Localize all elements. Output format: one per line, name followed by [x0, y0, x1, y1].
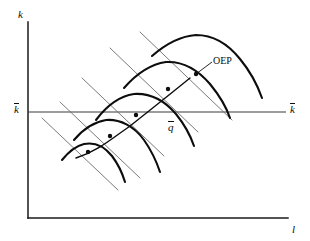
- tangency-point: [166, 87, 170, 91]
- economics-isoquant-figure: k l k k q OEP: [0, 0, 310, 241]
- x-axis-label: l: [292, 224, 295, 235]
- y-axis-label: k: [18, 9, 23, 20]
- qbar-text: q: [168, 121, 174, 133]
- isoquant-curve-1: [62, 144, 125, 183]
- kbar-right-text: k: [290, 103, 295, 115]
- qbar-label: q: [168, 121, 174, 133]
- oep-label: OEP: [213, 56, 232, 66]
- figure-canvas: [0, 0, 310, 241]
- isocost-line-4: [110, 48, 198, 132]
- tangency-point: [108, 134, 112, 138]
- tangency-point: [134, 113, 138, 117]
- kbar-left-text: k: [14, 103, 19, 115]
- tangency-point: [86, 150, 90, 154]
- oep-leader-line: [196, 62, 212, 74]
- kbar-label-right: k: [290, 103, 295, 115]
- kbar-label-left: k: [14, 103, 19, 115]
- isocost-line-1: [42, 118, 118, 190]
- output-expansion-path: [76, 78, 190, 158]
- isoquant-curve-4: [124, 62, 230, 118]
